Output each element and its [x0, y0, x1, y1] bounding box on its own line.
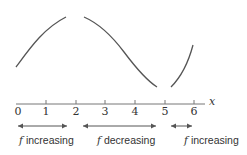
curve-decreasing: [84, 17, 157, 87]
tick-label-6: 6: [191, 106, 198, 118]
interval-label-decreasing: fdecreasing: [97, 134, 155, 147]
interval-text: increasing: [26, 134, 74, 146]
interval-label-increasing-1: fincreasing: [19, 134, 74, 147]
function-symbol: f: [19, 134, 23, 146]
curve-increasing-left: [16, 17, 66, 67]
tick-label-4: 4: [132, 106, 139, 118]
graph-svg: [0, 0, 247, 155]
interval-text: decreasing: [104, 134, 155, 146]
curve-increasing-right: [171, 45, 193, 87]
monotonicity-diagram: 0 1 2 3 4 5 6 x fincreasing fdecreasing …: [0, 0, 247, 155]
interval-text: increasing: [191, 134, 239, 146]
tick-label-3: 3: [102, 106, 109, 118]
axis-variable-label: x: [209, 96, 215, 108]
function-symbol: f: [184, 134, 188, 146]
interval-label-increasing-2: fincreasing: [184, 134, 239, 147]
tick-label-2: 2: [73, 106, 80, 118]
function-symbol: f: [97, 134, 101, 146]
tick-label-5: 5: [162, 106, 169, 118]
tick-label-0: 0: [15, 106, 22, 118]
axis-ticks: [46, 100, 194, 104]
tick-label-1: 1: [43, 106, 50, 118]
